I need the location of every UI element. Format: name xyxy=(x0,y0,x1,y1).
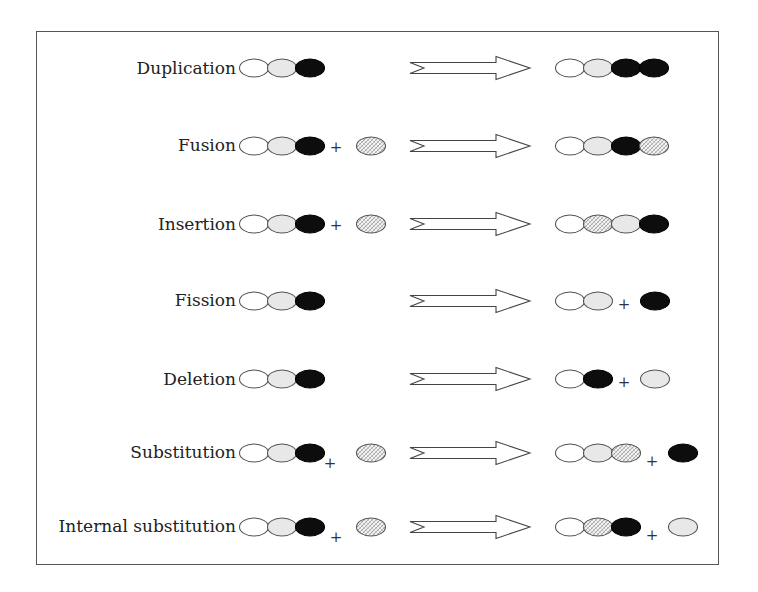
internal-substitution-arrow-icon xyxy=(410,516,530,539)
duplication-before-light-domain-oval xyxy=(268,59,297,77)
fission-after-light-domain-oval xyxy=(584,292,613,310)
duplication-after-light-domain-oval xyxy=(584,59,613,77)
fission-after-white-domain-oval xyxy=(556,292,585,310)
substitution-before-light-domain-oval xyxy=(268,444,297,462)
insertion-before-light-domain-oval xyxy=(268,215,297,233)
fission-before-light-domain-oval xyxy=(268,292,297,310)
insertion-after-white-domain-oval xyxy=(556,215,585,233)
deletion-before-white-domain-oval xyxy=(240,370,269,388)
duplication-after-white-domain-oval xyxy=(556,59,585,77)
fusion-after-hatched-domain-oval xyxy=(640,137,669,155)
duplication-after-black-domain-oval xyxy=(640,59,669,77)
insertion-after-black-domain-oval xyxy=(640,215,669,233)
fusion-before-white-domain-oval xyxy=(240,137,269,155)
insertion-after-light-domain-oval xyxy=(612,215,641,233)
fission-before-black-domain-oval xyxy=(296,292,325,310)
domain-diagram: ++++++++ xyxy=(0,0,758,592)
internal-substitution-before-light-domain-oval xyxy=(268,518,297,536)
deletion-after-black-domain-oval xyxy=(584,370,613,388)
fusion-after-white-domain-oval xyxy=(556,137,585,155)
substitution-after-hatched-domain-oval xyxy=(612,444,641,462)
substitution-before-white-domain-oval xyxy=(240,444,269,462)
deletion-before-light-domain-oval xyxy=(268,370,297,388)
internal-substitution-after-plus-sign: + xyxy=(646,526,659,544)
substitution-arrow-icon xyxy=(410,442,530,465)
insertion-before-plus-sign: + xyxy=(330,216,343,234)
insertion-after-hatched-domain-oval xyxy=(584,215,613,233)
duplication-before-white-domain-oval xyxy=(240,59,269,77)
insertion-before-white-domain-oval xyxy=(240,215,269,233)
insertion-before-black-domain-oval xyxy=(296,215,325,233)
internal-substitution-before-plus-sign: + xyxy=(330,528,343,546)
substitution-after-light-domain-oval xyxy=(584,444,613,462)
deletion-after-white-domain-oval xyxy=(556,370,585,388)
fusion-before-plus-sign: + xyxy=(330,138,343,156)
fission-after-extra-black-domain-oval xyxy=(641,292,670,310)
deletion-after-extra-light-domain-oval xyxy=(641,370,670,388)
deletion-after-plus-sign: + xyxy=(618,373,631,391)
fusion-before-extra-hatched-domain-oval xyxy=(357,137,386,155)
fusion-after-light-domain-oval xyxy=(584,137,613,155)
deletion-arrow-icon xyxy=(410,368,530,391)
internal-substitution-after-hatched-domain-oval xyxy=(584,518,613,536)
duplication-arrow-icon xyxy=(410,57,530,80)
internal-substitution-before-black-domain-oval xyxy=(296,518,325,536)
duplication-after-black-domain-oval xyxy=(612,59,641,77)
fusion-arrow-icon xyxy=(410,135,530,158)
substitution-after-white-domain-oval xyxy=(556,444,585,462)
substitution-before-plus-sign: + xyxy=(324,454,337,472)
substitution-after-extra-black-domain-oval xyxy=(669,444,698,462)
fission-after-plus-sign: + xyxy=(618,295,631,313)
internal-substitution-after-black-domain-oval xyxy=(612,518,641,536)
fusion-before-light-domain-oval xyxy=(268,137,297,155)
substitution-after-plus-sign: + xyxy=(646,452,659,470)
substitution-before-black-domain-oval xyxy=(296,444,325,462)
internal-substitution-before-extra-hatched-domain-oval xyxy=(357,518,386,536)
fusion-after-black-domain-oval xyxy=(612,137,641,155)
insertion-before-extra-hatched-domain-oval xyxy=(357,215,386,233)
internal-substitution-after-extra-light-domain-oval xyxy=(669,518,698,536)
fusion-before-black-domain-oval xyxy=(296,137,325,155)
fission-before-white-domain-oval xyxy=(240,292,269,310)
deletion-before-black-domain-oval xyxy=(296,370,325,388)
duplication-before-black-domain-oval xyxy=(296,59,325,77)
substitution-before-extra-hatched-domain-oval xyxy=(357,444,386,462)
insertion-arrow-icon xyxy=(410,213,530,236)
fission-arrow-icon xyxy=(410,290,530,313)
internal-substitution-before-white-domain-oval xyxy=(240,518,269,536)
internal-substitution-after-white-domain-oval xyxy=(556,518,585,536)
